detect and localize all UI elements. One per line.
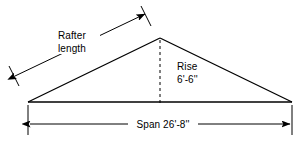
roof-truss-diagram: Rise 6'-6'' Rafter length Span 26'-8'' bbox=[0, 0, 307, 144]
rafter-label-line1: Rafter bbox=[58, 30, 86, 41]
rise-dimension: Rise 6'-6'' bbox=[160, 40, 198, 104]
rise-label-line1: Rise bbox=[177, 61, 198, 72]
rafter-label-line2: length bbox=[58, 43, 86, 54]
rafter-length-dimension: Rafter length bbox=[9, 6, 151, 86]
truss-drawing: Rise 6'-6'' Rafter length Span 26'-8'' bbox=[0, 0, 307, 144]
span-dimension: Span 26'-8'' bbox=[28, 105, 292, 135]
rise-label-line2: 6'-6'' bbox=[177, 74, 198, 85]
span-label: Span 26'-8'' bbox=[136, 119, 189, 130]
rafter-dim-tick-lower bbox=[9, 66, 19, 86]
rafter-dim-tick-upper bbox=[141, 6, 151, 26]
